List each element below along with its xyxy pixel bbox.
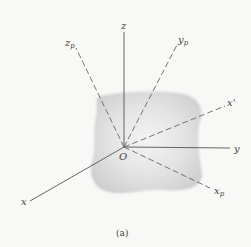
z-label: z [120, 20, 127, 31]
xp-label: xp [214, 185, 225, 198]
origin-label: O [119, 151, 127, 162]
zp-label: zp [64, 37, 75, 50]
y-label: y [233, 143, 240, 154]
principal-axes-diagram: z zp yp x' y xp x O (a) [0, 0, 251, 247]
yp-label: yp [177, 34, 189, 47]
x-label: x [21, 196, 27, 207]
xprime-label: x' [227, 97, 235, 108]
rigid-body-shape [91, 92, 202, 194]
figure-caption: (a) [116, 228, 128, 238]
figure-canvas: z zp yp x' y xp x O (a) [0, 0, 251, 247]
